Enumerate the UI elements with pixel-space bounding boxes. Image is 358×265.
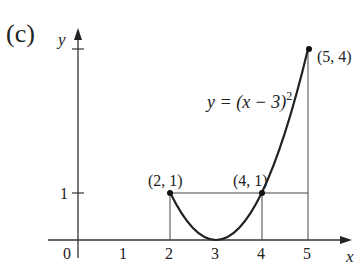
x-tick-label-5: 5 [303, 245, 311, 262]
point-2-1 [167, 190, 173, 196]
x-tick-label-1: 1 [119, 245, 127, 262]
x-tick-label-2: 2 [165, 245, 173, 262]
point-4-1 [259, 190, 265, 196]
x-axis-label: x [345, 247, 354, 265]
y-tick-label-1: 1 [60, 185, 68, 202]
equation-exponent: 2 [286, 89, 292, 103]
y-axis-arrow-icon [74, 28, 82, 40]
point-5-4 [306, 46, 312, 52]
origin-label: 0 [63, 245, 71, 262]
x-tick-label-3: 3 [211, 245, 219, 262]
x-axis-arrow-icon [340, 236, 352, 244]
parabola-curve [170, 49, 308, 240]
point-label-2-1: (2, 1) [148, 172, 183, 190]
x-tick-label-4: 4 [257, 245, 265, 262]
point-label-5-4: (5, 4) [317, 48, 352, 66]
point-label-4-1: (4, 1) [233, 172, 268, 190]
diagram-canvas: (c) y x 1 0 1 2 3 4 5 (2, 1) (4, 1) (5, … [0, 0, 358, 265]
equation-label: y = (x − 3)2 [205, 89, 292, 113]
panel-label: (c) [6, 19, 35, 48]
equation-lhs: y = (x − 3) [205, 92, 286, 113]
y-axis-label: y [56, 30, 66, 49]
